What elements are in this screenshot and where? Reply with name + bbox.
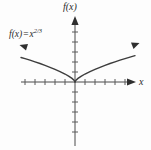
y-axis-label: f(x) <box>63 2 77 12</box>
function-equation-label: f(x)=x2/3 <box>9 28 42 40</box>
x-axis-label: x <box>139 77 143 87</box>
function-graph-figure: f(x) x f(x)=x2/3 <box>0 0 151 150</box>
function-label-equals: = <box>22 29 29 39</box>
function-label-exponent: 2/3 <box>34 27 42 34</box>
curve-arrow-right <box>131 43 140 50</box>
graph-canvas <box>0 0 151 150</box>
function-curve <box>20 43 140 83</box>
curve-arrow-left <box>20 44 29 51</box>
function-label-lhs: f(x) <box>9 29 22 39</box>
x-axis <box>21 78 136 85</box>
